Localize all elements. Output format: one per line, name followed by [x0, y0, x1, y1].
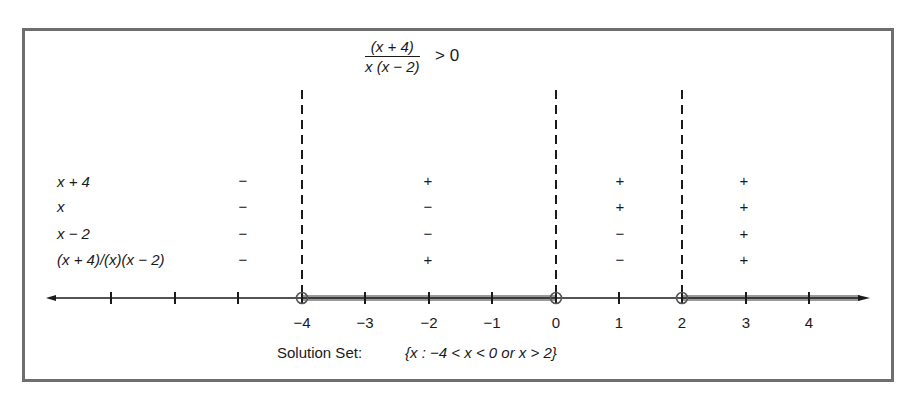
tick-label: 3 [742, 314, 750, 331]
tick-label: −1 [483, 314, 500, 331]
tick-label: −3 [356, 314, 373, 331]
tick-label: 2 [678, 314, 686, 331]
tick-label: 0 [552, 314, 560, 331]
solution-set: {x : −4 < x < 0 or x > 2} [405, 344, 557, 361]
tick-label: 1 [615, 314, 623, 331]
right-arrow-icon [858, 295, 870, 301]
solution-label: Solution Set: [277, 344, 362, 361]
critical-point-lines [302, 90, 682, 296]
left-arrow-icon [46, 295, 56, 301]
tick-label: −2 [420, 314, 437, 331]
tick-label: 4 [805, 314, 813, 331]
tick-label: −4 [293, 314, 310, 331]
